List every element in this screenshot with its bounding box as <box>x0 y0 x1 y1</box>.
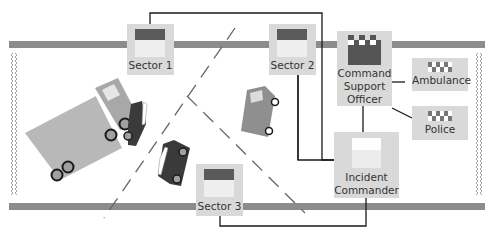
command-support-officer-icon <box>348 35 381 45</box>
ambulance-label: Ambulance <box>412 74 468 87</box>
sector-3-label: Sector 3 <box>196 200 243 213</box>
connector-cso-to-police <box>392 108 412 118</box>
right-cordon <box>476 53 482 195</box>
police-box[interactable]: Police <box>412 106 468 140</box>
sector-1-label: Sector 1 <box>127 59 174 72</box>
sector-icon <box>204 169 234 180</box>
ambulance-box[interactable]: Ambulance <box>412 58 468 91</box>
incident-commander-box[interactable]: Incident Commander <box>334 132 399 198</box>
lorry-icon <box>25 78 140 181</box>
incident-commander-icon <box>352 138 381 168</box>
command-support-officer-icon-body <box>348 45 381 65</box>
ambulance-icon <box>428 62 452 72</box>
command-support-officer-label-line3: Officer <box>337 93 392 106</box>
connector-sector2-bottom <box>298 75 334 160</box>
sector-2-label: Sector 2 <box>269 59 316 72</box>
incident-commander-label-line1: Incident <box>334 171 399 184</box>
police-label: Police <box>412 123 468 136</box>
left-cordon <box>11 53 17 195</box>
sector-3-box[interactable]: Sector 3 <box>196 164 243 216</box>
sector-1-box[interactable]: Sector 1 <box>127 24 174 75</box>
sector-icon-base <box>204 180 234 197</box>
sector-icon <box>277 29 307 40</box>
command-support-officer-box[interactable]: Command Support Officer <box>337 31 392 106</box>
sector-icon <box>135 29 165 40</box>
command-support-officer-label-line1: Command <box>337 67 392 80</box>
incident-commander-label-line2: Commander <box>334 184 399 197</box>
bottom-road <box>9 203 485 210</box>
top-road <box>9 41 485 48</box>
sector-2-box[interactable]: Sector 2 <box>269 24 316 75</box>
sector-icon-base <box>135 40 165 57</box>
car-icon <box>158 140 190 186</box>
sector-icon-base <box>277 40 307 57</box>
van-icon <box>241 86 279 137</box>
command-support-officer-label-line2: Support <box>337 80 392 93</box>
incident-diagram: Sector 1 Sector 2 Sector 3 Command Suppo… <box>0 0 493 237</box>
police-icon <box>428 111 452 121</box>
